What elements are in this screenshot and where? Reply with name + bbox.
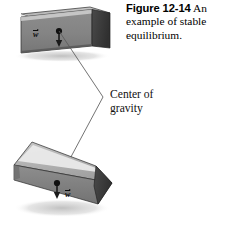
tilted-block-left-edge xyxy=(14,165,20,180)
figure-container: Figure 12-14 An example of stable equili… xyxy=(0,0,226,229)
weight-symbol-tilted-text: w xyxy=(65,191,70,198)
weight-symbol-upright: w xyxy=(33,30,38,38)
stable-block-tilted xyxy=(14,142,112,204)
tilted-block-side-face xyxy=(94,166,112,204)
tilted-block-cg-dot xyxy=(54,180,60,186)
weight-symbol-upright-text: w xyxy=(33,31,38,38)
weight-symbol-tilted: w xyxy=(65,190,70,198)
vector-arrow-bar-tilted xyxy=(65,190,70,191)
upright-block-side-face xyxy=(92,10,110,49)
vector-arrow-bar-upright xyxy=(33,30,38,31)
center-of-gravity-label: Center of gravity xyxy=(110,88,153,115)
